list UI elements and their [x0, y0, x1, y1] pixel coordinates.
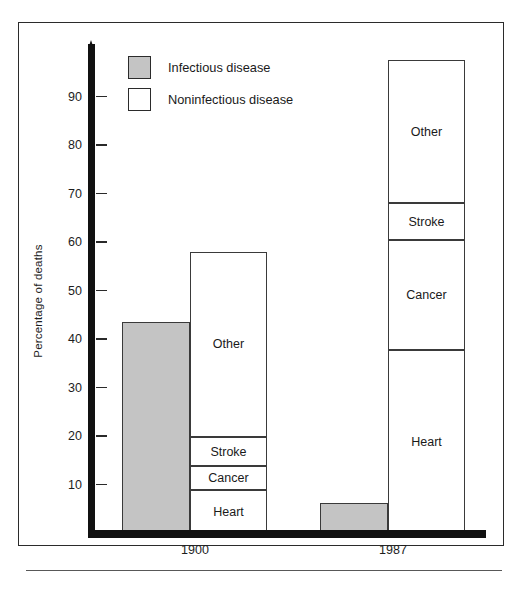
segment-1987-stroke: Stroke — [388, 203, 465, 240]
segment-label-1987-stroke: Stroke — [408, 215, 444, 229]
segment-1987-cancer: Cancer — [388, 240, 465, 350]
segment-1900-other: Other — [190, 252, 267, 437]
legend-item-noninfectious: Noninfectious disease — [128, 88, 348, 111]
legend-item-infectious: Infectious disease — [128, 56, 348, 79]
x-tick-label-1987: 1987 — [353, 543, 433, 557]
y-tick-mark-10 — [96, 484, 107, 486]
footer-rule — [26, 570, 502, 571]
segment-1900-cancer: Cancer — [190, 466, 267, 490]
y-tick-label-80: 80 — [54, 139, 82, 152]
y-tick-label-40: 40 — [54, 333, 82, 346]
segment-1987-other: Other — [388, 60, 465, 203]
segment-label-1987-cancer: Cancer — [406, 288, 446, 302]
segment-label-1900-cancer: Cancer — [208, 471, 248, 485]
legend-label-noninfectious: Noninfectious disease — [168, 92, 293, 107]
chart-figure: Percentage of deaths 90 80 70 60 50 40 3… — [0, 0, 522, 589]
y-axis-line — [88, 44, 95, 536]
x-tick-label-1900: 1900 — [155, 543, 235, 557]
y-tick-mark-50 — [96, 290, 107, 292]
bar-1987-infectious — [320, 503, 388, 533]
y-tick-label-50: 50 — [54, 285, 82, 298]
y-tick-label-20: 20 — [54, 430, 82, 443]
y-tick-label-10: 10 — [54, 479, 82, 492]
segment-label-1987-heart: Heart — [411, 435, 442, 449]
legend-swatch-infectious-icon — [128, 56, 151, 79]
chart-legend: Infectious disease Noninfectious disease — [128, 56, 348, 120]
y-tick-mark-30 — [96, 387, 107, 389]
x-axis-line — [88, 530, 486, 538]
segment-label-1900-stroke: Stroke — [210, 445, 246, 459]
segment-label-1900-other: Other — [213, 337, 244, 351]
y-tick-label-30: 30 — [54, 382, 82, 395]
segment-1987-heart: Heart — [388, 350, 465, 533]
y-axis-arrow-icon — [88, 40, 94, 49]
bar-1900-infectious — [122, 322, 190, 533]
y-axis-title: Percentage of deaths — [32, 241, 44, 361]
y-tick-mark-80 — [96, 144, 107, 146]
segment-label-1900-heart: Heart — [213, 505, 244, 519]
legend-swatch-noninfectious-icon — [128, 88, 151, 111]
y-tick-mark-70 — [96, 193, 107, 195]
y-tick-label-90: 90 — [54, 91, 82, 104]
segment-1900-stroke: Stroke — [190, 437, 267, 466]
y-tick-label-60: 60 — [54, 236, 82, 249]
legend-label-infectious: Infectious disease — [168, 60, 270, 75]
y-tick-mark-60 — [96, 241, 107, 243]
y-tick-mark-40 — [96, 338, 107, 340]
y-tick-mark-90 — [96, 96, 107, 98]
y-tick-mark-20 — [96, 435, 107, 437]
y-tick-label-70: 70 — [54, 188, 82, 201]
segment-1900-heart: Heart — [190, 490, 267, 533]
segment-label-1987-other: Other — [411, 125, 442, 139]
